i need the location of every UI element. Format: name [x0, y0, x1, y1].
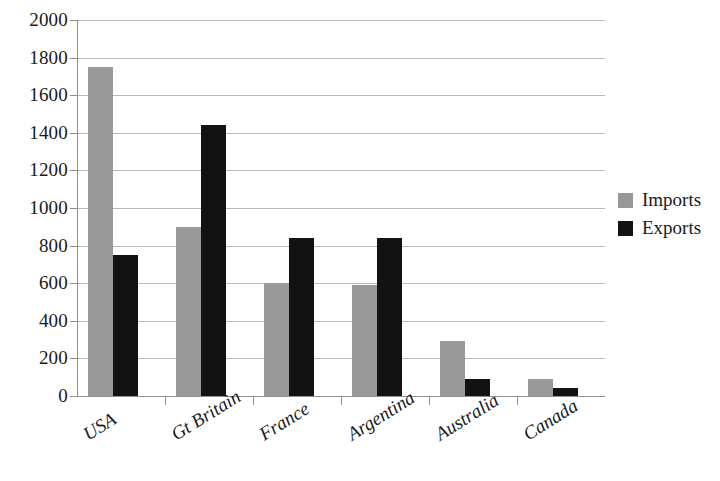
x-category-label-canada: Canada [520, 396, 582, 445]
bar-imports-usa [88, 67, 113, 396]
y-tickmark-2000 [70, 20, 78, 21]
y-tickmark-1400 [70, 133, 78, 134]
legend-item-imports[interactable]: Imports [618, 186, 720, 214]
bar-exports-france [289, 238, 314, 396]
gridline-400 [77, 321, 605, 322]
legend-label-imports: Imports [642, 190, 701, 210]
y-tick-label-200: 200 [6, 348, 68, 367]
gridline-2000 [77, 20, 605, 21]
y-tickmark-800 [70, 246, 78, 247]
chart-legend: Imports Exports [618, 186, 720, 242]
x-category-label-argentina: Argentina [344, 388, 418, 445]
bar-imports-canada [528, 379, 553, 396]
y-tickmark-600 [70, 283, 78, 284]
gridline-1200 [77, 170, 605, 171]
bar-exports-gt-britain [201, 125, 226, 396]
y-tick-label-1400: 1400 [6, 123, 68, 142]
y-tickmark-1800 [70, 58, 78, 59]
y-tickmark-1600 [70, 95, 78, 96]
y-tick-label-400: 400 [6, 311, 68, 330]
y-tickmark-1200 [70, 170, 78, 171]
y-tickmark-200 [70, 358, 78, 359]
legend-swatch-imports-icon [618, 193, 633, 208]
bar-chart: 0200400600800100012001400160018002000 US… [0, 0, 720, 481]
y-tick-label-600: 600 [6, 273, 68, 292]
legend-label-exports: Exports [642, 218, 701, 238]
gridline-1800 [77, 58, 605, 59]
y-tick-label-1800: 1800 [6, 48, 68, 67]
y-tick-label-800: 800 [6, 236, 68, 255]
gridline-1000 [77, 208, 605, 209]
bar-imports-argentina [352, 285, 377, 396]
y-tickmark-1000 [70, 208, 78, 209]
x-category-label-australia: Australia [432, 390, 503, 444]
gridline-800 [77, 246, 605, 247]
gridline-600 [77, 283, 605, 284]
x-category-label-usa: USA [80, 409, 120, 444]
bar-exports-argentina [377, 238, 402, 396]
legend-item-exports[interactable]: Exports [618, 214, 720, 242]
bar-imports-gt-britain [176, 227, 201, 396]
y-tick-label-1000: 1000 [6, 198, 68, 217]
bar-exports-canada [553, 388, 578, 396]
bar-exports-usa [113, 255, 138, 396]
gridline-200 [77, 358, 605, 359]
bar-imports-france [264, 283, 289, 396]
bar-imports-australia [440, 341, 465, 396]
x-axis-category-labels: USAGt BritainFranceArgentinaAustraliaCan… [0, 396, 720, 481]
y-tick-label-1600: 1600 [6, 85, 68, 104]
gridline-1600 [77, 95, 605, 96]
plot-area [77, 20, 605, 396]
legend-swatch-exports-icon [618, 221, 633, 236]
gridline-1400 [77, 133, 605, 134]
y-tickmark-400 [70, 321, 78, 322]
y-tick-label-2000: 2000 [6, 10, 68, 29]
y-tick-label-1200: 1200 [6, 160, 68, 179]
x-category-label-gt-britain: Gt Britain [168, 386, 244, 444]
x-category-label-france: France [256, 398, 313, 444]
